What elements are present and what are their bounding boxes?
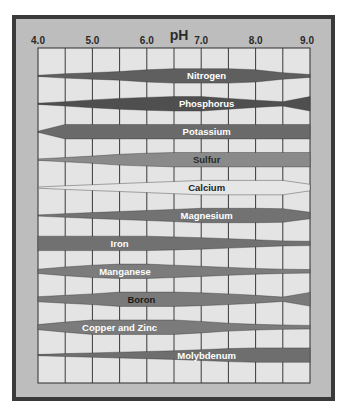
nutrient-label: Manganese <box>99 266 151 277</box>
nutrient-band-potassium <box>38 125 310 139</box>
x-tick-label: 5.0 <box>85 35 99 46</box>
x-tick-label: 6.0 <box>140 35 154 46</box>
chart-title: pH <box>170 27 189 43</box>
x-tick-label: 8.0 <box>249 35 263 46</box>
x-tick-label: 4.0 <box>31 35 45 46</box>
nutrient-availability-chart: pH 4.05.06.07.08.09.0 NitrogenPhosphorus… <box>0 0 345 410</box>
nutrient-label: Molybdenum <box>177 350 236 361</box>
nutrient-label: Nitrogen <box>187 70 226 81</box>
nutrient-label: Boron <box>127 294 155 305</box>
nutrient-label: Calcium <box>188 182 225 193</box>
nutrient-label: Iron <box>111 238 129 249</box>
nutrient-label: Potassium <box>183 126 231 137</box>
nutrient-label: Phosphorus <box>179 98 234 109</box>
x-tick-label: 7.0 <box>194 35 208 46</box>
x-tick-label: 9.0 <box>300 35 314 46</box>
nutrient-label: Copper and Zinc <box>82 322 157 333</box>
nutrient-label: Magnesium <box>181 210 233 221</box>
nutrient-label: Sulfur <box>193 154 221 165</box>
